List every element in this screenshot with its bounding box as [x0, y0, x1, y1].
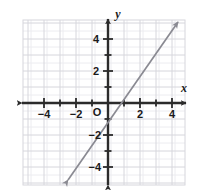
x-tick-label-neg4: −4 — [38, 108, 51, 120]
x-tick-label-neg2: −2 — [70, 108, 83, 120]
x-axis-label: x — [180, 81, 187, 95]
origin-label: O — [93, 106, 102, 118]
y-axis-label: y — [113, 7, 121, 21]
graph-canvas: −4 −2 2 4 4 2 −2 −4 O x y — [0, 0, 204, 193]
coordinate-plane-figure: −4 −2 2 4 4 2 −2 −4 O x y — [0, 0, 204, 193]
x-tick-label-2: 2 — [137, 108, 143, 120]
y-tick-label-2: 2 — [93, 65, 99, 77]
y-tick-label-neg4: −4 — [88, 161, 101, 173]
y-tick-label-4: 4 — [93, 33, 100, 45]
linear-function-line — [68, 22, 178, 180]
x-tick-label-4: 4 — [169, 108, 176, 120]
y-tick-label-neg2: −2 — [88, 129, 101, 141]
